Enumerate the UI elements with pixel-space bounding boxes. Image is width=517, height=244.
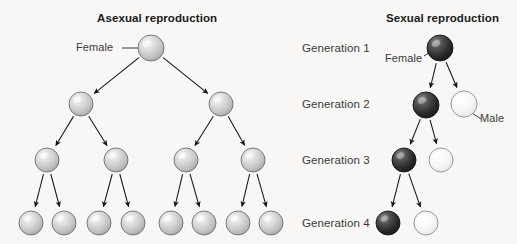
sexual-organism-white-gen4 [414, 211, 438, 235]
asexual-lineage-arrow [228, 117, 244, 146]
generation-label-3: Generation 3 [302, 154, 370, 166]
sexual-panel-title: Sexual reproduction [386, 12, 499, 24]
sexual-male-label: Male [480, 112, 504, 124]
asexual-organism-grey-gen4 [19, 211, 43, 235]
asexual-lineage-arrow [190, 174, 199, 207]
sexual-lineage-arrow [409, 174, 421, 207]
sexual-lineage-arrow [410, 119, 420, 144]
generation-label-1: Generation 1 [302, 42, 370, 54]
asexual-organism-grey-gen4 [52, 211, 76, 235]
asexual-lineage-arrow [94, 58, 139, 94]
asexual-edge-group [35, 58, 266, 207]
asexual-panel-title: Asexual reproduction [97, 12, 217, 24]
asexual-organism-grey-gen3 [174, 148, 198, 172]
generation-label-2: Generation 2 [302, 98, 370, 110]
sexual-organism-dark-gen4 [376, 211, 400, 235]
diagram-canvas [0, 0, 517, 244]
asexual-organism-grey-gen4 [159, 211, 183, 235]
asexual-organism-grey-gen3 [241, 148, 265, 172]
sexual-organism-white-gen3 [429, 148, 453, 172]
asexual-organism-grey-gen2 [69, 92, 93, 116]
asexual-organism-grey-gen2 [209, 92, 233, 116]
asexual-organism-grey-gen4 [192, 211, 216, 235]
diagram-root: Asexual reproduction Sexual reproduction… [0, 0, 517, 244]
sexual-lineage-arrow [392, 174, 400, 206]
asexual-organism-grey-gen1 [138, 35, 164, 61]
asexual-organism-grey-gen4 [226, 211, 250, 235]
sexual-organism-dark-gen2 [413, 92, 439, 118]
asexual-lineage-arrow [175, 174, 183, 206]
sexual-lineage-arrow [446, 62, 457, 87]
asexual-lineage-arrow [51, 174, 60, 207]
asexual-lineage-arrow [195, 116, 213, 145]
sexual-edge-group [392, 62, 457, 207]
generation-label-4: Generation 4 [302, 217, 370, 229]
asexual-female-label: Female [76, 41, 113, 53]
asexual-organism-grey-gen4 [259, 211, 283, 235]
asexual-organism-grey-gen4 [87, 211, 111, 235]
sexual-node-group [376, 35, 477, 235]
asexual-lineage-arrow [35, 174, 43, 206]
sexual-organism-white-gen2 [451, 91, 477, 117]
sexual-organism-dark-gen3 [392, 148, 416, 172]
sexual-female-label: Female [385, 52, 422, 64]
asexual-lineage-arrow [163, 58, 208, 94]
asexual-lineage-arrow [257, 174, 266, 207]
asexual-organism-grey-gen4 [121, 211, 145, 235]
asexual-organism-grey-gen3 [104, 148, 128, 172]
sexual-organism-dark-gen1 [427, 35, 453, 61]
asexual-lineage-arrow [103, 174, 112, 207]
asexual-lineage-arrow [56, 116, 74, 145]
sexual-lineage-arrow [430, 63, 436, 87]
asexual-lineage-arrow [242, 174, 250, 206]
asexual-lineage-arrow [120, 174, 129, 207]
asexual-lineage-arrow [89, 116, 107, 145]
sexual-lineage-arrow [430, 120, 436, 144]
asexual-organism-grey-gen3 [35, 148, 59, 172]
